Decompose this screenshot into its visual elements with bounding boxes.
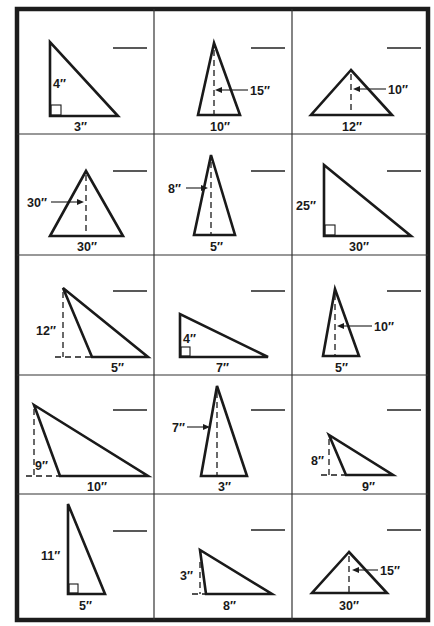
height-label: 8″ [168,182,181,196]
base-label: 30″ [349,240,369,254]
height-label: 4″ [183,332,196,346]
height-label: 10″ [374,320,394,334]
base-label: 8″ [223,599,236,613]
problem-6: 25″ 30″ [296,165,421,254]
problem-15: 15″ 30″ [312,530,421,613]
worksheet: 4″ 3″ 15″ 10″ 10″ 12″ 30″ 30″ 8″ [0,0,434,626]
triangle [323,289,359,356]
arrowhead-icon [215,87,222,93]
problem-11: 7″ 3″ [172,386,285,494]
triangle [198,43,240,115]
height-label: 7″ [172,421,185,435]
problem-9: 10″ 5″ [323,289,421,375]
base-label: 12″ [342,120,362,134]
height-label: 15″ [380,564,400,578]
obtuse-triangle [329,435,393,475]
height-label: 25″ [296,199,316,213]
base-label: 5″ [210,240,223,254]
arrowhead-icon [352,567,359,573]
base-label: 3″ [74,120,87,134]
base-label: 9″ [362,480,375,494]
height-label: 15″ [250,84,270,98]
arrowhead-icon [337,323,344,329]
problem-3: 10″ 12″ [311,48,421,134]
problem-10: 9″ 10″ [26,405,148,494]
height-label: 8″ [311,454,324,468]
problem-4: 30″ 30″ [27,171,147,254]
base-label: 10″ [87,480,107,494]
problem-13: 11″ 5″ [41,504,147,613]
right-angle-mark [69,584,78,593]
right-angle-mark [325,225,335,235]
height-label: 4″ [53,77,66,91]
right-triangle [68,504,105,594]
base-label: 5″ [79,599,92,613]
triangle [194,155,235,235]
right-angle-mark [51,105,61,115]
obtuse-triangle [63,288,148,357]
arrowhead-icon [353,86,360,92]
problem-7: 12″ 5″ [36,288,148,375]
height-label: 3″ [180,569,193,583]
problem-8: 4″ 7″ [180,291,285,375]
obtuse-triangle [34,405,148,476]
height-label: 10″ [388,83,408,97]
obtuse-triangle [200,550,272,594]
base-label: 5″ [335,361,348,375]
base-label: 10″ [210,120,230,134]
arrowhead-icon [77,199,84,205]
right-angle-mark [181,347,190,356]
base-label: 5″ [111,361,124,375]
height-label: 9″ [35,459,48,473]
right-triangle [324,165,411,236]
triangle [201,386,247,476]
base-label: 30″ [77,240,97,254]
base-label: 3″ [218,480,231,494]
base-label: 7″ [216,361,229,375]
problem-14: 3″ 8″ [180,530,285,613]
problem-12: 8″ 9″ [311,410,421,494]
height-label: 30″ [27,196,47,210]
problem-5: 8″ 5″ [168,155,285,254]
base-label: 30″ [339,599,359,613]
height-label: 11″ [41,549,60,563]
height-label: 12″ [36,324,56,338]
problem-2: 15″ 10″ [198,43,285,134]
problem-1: 4″ 3″ [50,42,147,134]
